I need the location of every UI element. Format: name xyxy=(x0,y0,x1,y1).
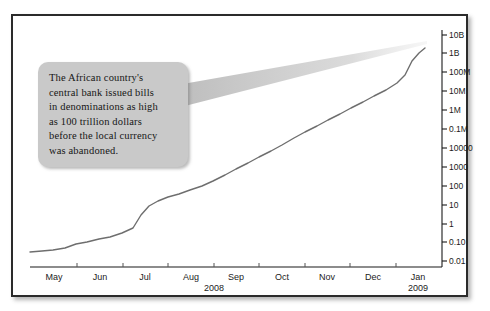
y-tick-label: 10000 xyxy=(449,144,473,153)
x-tick-label-dec: Dec xyxy=(365,272,381,282)
y-tick-marks xyxy=(442,35,447,261)
plot-area: 10B 1B 100M 10M 1M 0.1M 10000 1000 100 1… xyxy=(13,16,470,299)
x-tick-label-jun: Jun xyxy=(93,272,108,282)
y-tick-label: 0.10 xyxy=(449,238,466,247)
x-tick-label-sep: Sep xyxy=(228,272,244,282)
y-tick-label: 100 xyxy=(449,182,463,191)
x-axis-year-2008: 2008 xyxy=(204,283,224,293)
y-tick-label: 1M xyxy=(449,106,461,115)
x-tick-label-may: May xyxy=(45,272,62,282)
x-tick-label-oct: Oct xyxy=(275,272,289,282)
x-tick-label-jan: Jan xyxy=(411,272,426,282)
x-tick-marks xyxy=(77,263,396,267)
y-tick-label: 0.01 xyxy=(449,257,466,266)
y-tick-label: 1B xyxy=(449,49,459,58)
y-tick-label: 1 xyxy=(449,220,454,229)
callout-pointer xyxy=(177,41,427,108)
x-tick-label-aug: Aug xyxy=(183,272,199,282)
y-tick-label: 0.1M xyxy=(449,125,468,134)
y-tick-label: 10B xyxy=(449,31,464,40)
y-tick-label: 10 xyxy=(449,201,458,210)
x-axis-year-2009: 2009 xyxy=(408,283,428,293)
annotation-callout: The African country's central bank issue… xyxy=(38,62,188,167)
x-tick-label-jul: Jul xyxy=(139,272,151,282)
chart-frame: 10B 1B 100M 10M 1M 0.1M 10000 1000 100 1… xyxy=(11,14,468,297)
y-tick-label: 100M xyxy=(449,68,470,77)
annotation-callout-text: The African country's central bank issue… xyxy=(49,71,181,159)
y-tick-label: 1000 xyxy=(449,163,468,172)
figure-root: 10B 1B 100M 10M 1M 0.1M 10000 1000 100 1… xyxy=(0,0,490,311)
y-tick-label: 10M xyxy=(449,87,466,96)
x-tick-label-nov: Nov xyxy=(319,272,335,282)
